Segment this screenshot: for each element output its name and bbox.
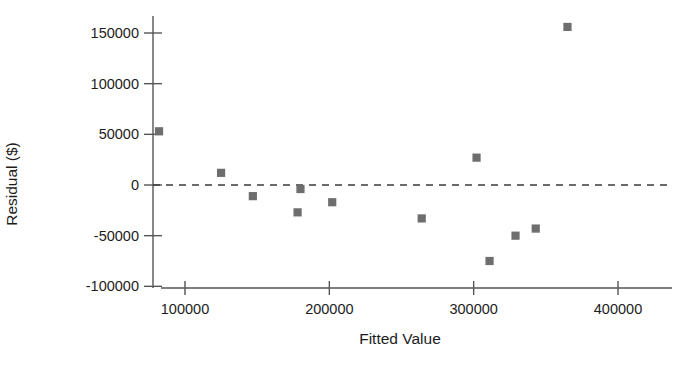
data-point — [418, 214, 426, 222]
data-point — [155, 127, 163, 135]
data-point — [485, 257, 493, 265]
y-tick-label: 100000 — [30, 76, 139, 91]
data-point — [532, 224, 540, 232]
x-axis-title: Fitted Value — [359, 330, 441, 348]
data-point — [249, 192, 257, 200]
x-tick-label: 400000 — [594, 302, 642, 317]
axis-group — [144, 16, 672, 295]
y-tick-label: -50000 — [30, 228, 139, 243]
data-point — [217, 169, 225, 177]
y-tick-label: 150000 — [30, 26, 139, 41]
data-point — [293, 208, 301, 216]
residual-plot-figure: -100000-50000050000100000150000 10000020… — [0, 0, 681, 368]
x-tick-label: 100000 — [161, 302, 209, 317]
x-tick-label: 300000 — [449, 302, 497, 317]
y-tick-label: -100000 — [30, 279, 139, 294]
data-point — [296, 185, 304, 193]
data-point — [563, 23, 571, 31]
y-axis-title: Residual ($) — [3, 142, 21, 226]
data-point — [472, 154, 480, 162]
y-tick-label: 50000 — [30, 127, 139, 142]
plot-area: -100000-50000050000100000150000 10000020… — [0, 0, 681, 368]
data-points-group — [155, 23, 572, 265]
y-tick-label: 0 — [30, 178, 139, 193]
x-tick-label: 200000 — [305, 302, 353, 317]
data-point — [328, 198, 336, 206]
data-point — [511, 232, 519, 240]
